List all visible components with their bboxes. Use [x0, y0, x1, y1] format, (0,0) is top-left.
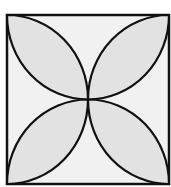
petal-diagram: [0, 0, 171, 187]
